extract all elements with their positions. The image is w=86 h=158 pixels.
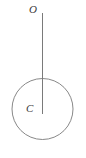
point-label-o: O: [29, 4, 37, 15]
geometry-diagram: O C: [0, 0, 86, 158]
point-label-c: C: [26, 103, 33, 114]
figure-canvas: [0, 0, 86, 158]
